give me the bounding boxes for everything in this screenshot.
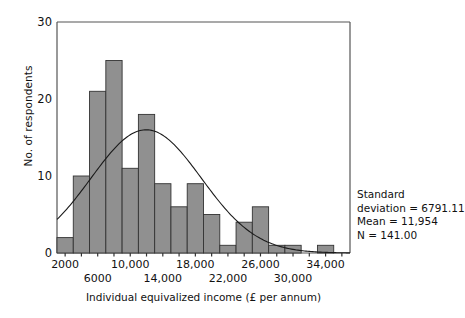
x-tick-label: 22,000	[209, 273, 248, 284]
histogram-bar	[122, 168, 138, 253]
histogram-bar	[57, 238, 73, 253]
x-tick-label: 18,000	[176, 259, 215, 270]
x-tick-label: 30,000	[274, 273, 313, 284]
histogram-bar	[73, 176, 89, 253]
x-tick-label: 2000	[51, 259, 79, 270]
x-axis-title: Individual equivalized income (£ per ann…	[57, 291, 350, 303]
histogram-bar	[138, 114, 154, 253]
stats-line-standard: Standard	[357, 188, 465, 202]
stats-line-deviation: deviation = 6791.11	[357, 202, 465, 216]
histogram-bar	[155, 184, 171, 253]
histogram-bars	[57, 61, 334, 254]
x-tick-label: 6000	[84, 273, 112, 284]
x-tick-label: 34,000	[306, 259, 345, 270]
histogram-bar	[204, 215, 220, 254]
histogram-bar	[269, 245, 285, 253]
statistics-annotation: Standard deviation = 6791.11 Mean = 11,9…	[357, 188, 465, 242]
histogram-bar	[252, 207, 268, 253]
histogram-bar	[90, 91, 106, 253]
histogram-bar	[187, 184, 203, 253]
stats-line-n: N = 141.00	[357, 229, 465, 243]
histogram-bar	[220, 245, 236, 253]
stats-line-mean: Mean = 11,954	[357, 215, 465, 229]
x-tick-label: 14,000	[144, 273, 183, 284]
histogram-bar	[106, 61, 122, 254]
x-tick-label: 26,000	[241, 259, 280, 270]
histogram-bar	[171, 207, 187, 253]
x-tick-label: 10,000	[111, 259, 150, 270]
